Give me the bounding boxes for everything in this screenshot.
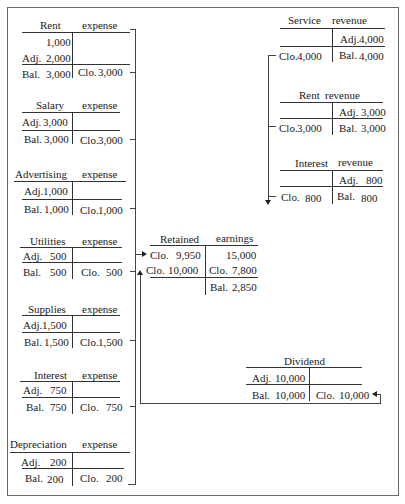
balance-amount: 750 <box>50 401 67 413</box>
closing-amount: 750 <box>106 401 123 413</box>
t-divider <box>205 245 206 295</box>
account-type: expense <box>82 235 117 247</box>
debit-label: Adj. <box>24 185 43 197</box>
debit-amount: 2,000 <box>46 52 71 64</box>
t-top-line <box>14 181 126 182</box>
arrow-right-icon <box>142 251 147 257</box>
t-top-line <box>20 247 122 248</box>
t-top-line <box>22 315 120 316</box>
closing-label: Clo. <box>80 336 99 348</box>
account-type: expense <box>82 168 117 180</box>
closing-amount: 800 <box>305 192 322 204</box>
account-type: revenue <box>338 156 373 168</box>
debit-amount: 500 <box>50 250 67 262</box>
t-balance-line <box>22 262 122 263</box>
credit-label: Adj. <box>340 33 359 45</box>
balance-amount: 500 <box>50 266 67 278</box>
closing-amount: 1,500 <box>98 336 123 348</box>
account-name: Utilities <box>30 235 65 247</box>
t-balance-line <box>280 186 383 187</box>
closing-amount: 10,000 <box>339 389 369 401</box>
account-type: expense <box>82 303 117 315</box>
closing-label: Clo. <box>279 122 298 134</box>
debit-amount: 10,000 <box>168 264 198 276</box>
balance-amount: 200 <box>47 473 64 485</box>
closing-label: Clo. <box>279 50 298 62</box>
closing-label: Clo. <box>80 401 99 413</box>
account-name: Salary <box>36 99 64 111</box>
debit-amount: 200 <box>50 456 67 468</box>
t-balance-line <box>150 277 258 278</box>
credit-amount: 800 <box>366 174 383 186</box>
credit-label: Adj. <box>339 106 358 118</box>
t-top-line <box>20 381 120 382</box>
account-name: Rent <box>299 89 320 101</box>
account-type: expense <box>82 438 117 450</box>
closing-amount: 3,000 <box>98 66 123 78</box>
balance-amount: 1,000 <box>44 203 69 215</box>
balance-amount: 4,000 <box>359 50 384 62</box>
t-balance-line <box>22 397 120 398</box>
debit-label: Adj. <box>23 384 42 396</box>
debit-label: Adj. <box>21 456 40 468</box>
debit-amount: 1,500 <box>42 319 67 331</box>
t-balance-line <box>22 130 120 131</box>
debit-label: Clo. <box>150 249 169 261</box>
debit-amount: 1,000 <box>46 36 71 48</box>
account-type: expense <box>82 19 117 31</box>
account-name: Interest <box>34 369 67 381</box>
balance-amount: 1,500 <box>44 336 69 348</box>
balance-label: Bal. <box>25 472 43 484</box>
closing-amount: 1,000 <box>98 204 123 216</box>
balance-label: Bal. <box>252 389 270 401</box>
t-divider <box>72 452 73 486</box>
balance-label: Bal. <box>210 281 228 293</box>
t-top-line <box>10 452 130 453</box>
credit-amount: 4,000 <box>359 33 384 45</box>
balance-amount: 800 <box>361 192 378 204</box>
debit-label: Adj. <box>23 319 42 331</box>
debit-label: Adj. <box>22 52 41 64</box>
debit-label: Adj. <box>23 250 42 262</box>
balance-label: Bal. <box>337 190 355 202</box>
account-name: Rent <box>40 19 61 31</box>
balance-label: Bal. <box>23 266 41 278</box>
credit-label: Adj. <box>339 174 358 186</box>
t-divider <box>332 28 333 62</box>
account-name: Interest <box>295 157 328 169</box>
closing-label: Clo. <box>80 134 99 146</box>
arrow-up-icon <box>137 270 143 275</box>
account-type: expense <box>82 99 117 111</box>
t-divider <box>72 32 73 78</box>
t-divider <box>332 170 333 204</box>
closing-amount: 3,000 <box>98 134 123 146</box>
debit-amount: 9,950 <box>176 249 201 261</box>
account-name: Retained <box>160 233 199 245</box>
debit-amount: 750 <box>50 384 67 396</box>
credit-amount: 15,000 <box>226 249 256 261</box>
balance-label: Bal. <box>24 336 42 348</box>
t-balance-line <box>246 384 362 385</box>
closing-amount: 4,000 <box>297 50 322 62</box>
account-type: expense <box>82 369 117 381</box>
credit-amount: 3,000 <box>361 106 386 118</box>
account-name: Depreciation <box>10 438 67 450</box>
debit-amount: 3,000 <box>43 116 68 128</box>
account-type: revenue <box>325 89 360 101</box>
debit-amount: 1,000 <box>43 185 68 197</box>
t-top-line <box>22 112 120 113</box>
closing-label: Clo. <box>281 191 300 203</box>
closing-label: Clo. <box>80 472 99 484</box>
t-balance-line <box>280 118 383 119</box>
arrow-down-icon <box>265 200 271 205</box>
t-top-line <box>150 245 258 246</box>
balance-amount: 2,850 <box>232 281 257 293</box>
balance-amount: 3,000 <box>361 122 386 134</box>
t-divider <box>72 112 73 144</box>
balance-label: Bal. <box>339 49 357 61</box>
account-type: revenue <box>332 14 367 26</box>
balance-label: Bal. <box>26 401 44 413</box>
closing-label: Clo. <box>81 266 100 278</box>
closing-label: Clo. <box>78 66 97 78</box>
balance-label: Bal. <box>24 133 42 145</box>
